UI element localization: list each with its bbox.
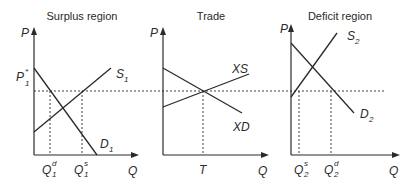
svg-text:s: s [304,159,308,168]
x-axis-label: Q [128,164,137,178]
y-axis-arrow-icon [288,24,294,32]
svg-text:2: 2 [303,170,309,179]
svg-text:Q: Q [74,163,83,177]
x-axis-label: Q [389,164,398,178]
price-label-p1-star: P * 1 [16,67,29,88]
y-axis-label: P [21,26,29,40]
excess-demand-label: XD [232,120,250,134]
svg-text:d: d [334,159,339,168]
svg-text:1: 1 [84,170,88,179]
panel-title: Surplus region [47,10,118,22]
demand-curve-d1 [34,68,97,155]
supply-label-s2: S [347,29,355,43]
demand-label-d2: D [360,107,369,121]
panel-surplus-region: Surplus region P Q P * 1 S 1 D 1 Q d 1 [16,10,139,179]
svg-text:1: 1 [52,170,56,179]
svg-text:1: 1 [124,75,128,84]
q2-demand-label: Q d 2 [324,159,339,179]
panel-title: Trade [197,10,225,22]
spatial-trade-diagram: Surplus region P Q P * 1 S 1 D 1 Q d 1 [0,0,415,182]
panel-title: Deficit region [308,10,372,22]
y-axis-arrow-icon [160,27,166,35]
excess-demand-curve [163,68,242,113]
demand-label-d1: D [100,137,109,151]
svg-text:1: 1 [109,145,113,154]
panel-deficit-region: Deficit region P Q S 2 D 2 Q s 2 Q d 2 [280,10,400,179]
svg-text:Q: Q [294,163,303,177]
x-axis-arrow-icon [131,152,139,158]
svg-text:*: * [25,67,29,76]
y-axis-label: P [280,22,288,36]
svg-text:1: 1 [25,79,29,88]
q1-supply-label: Q s 1 [74,159,88,179]
y-axis-arrow-icon [31,27,37,35]
svg-text:d: d [52,159,57,168]
svg-text:Q: Q [324,163,333,177]
svg-text:2: 2 [354,37,360,46]
svg-text:Q: Q [42,163,51,177]
excess-supply-curve [163,74,249,107]
supply-label-s1: S [116,67,124,81]
q2-supply-label: Q s 2 [294,159,309,179]
trade-quantity-label: T [199,163,208,177]
q1-demand-label: Q d 1 [42,159,57,179]
y-axis-label: P [150,26,158,40]
x-axis-arrow-icon [261,152,269,158]
svg-text:2: 2 [368,115,374,124]
panel-trade: Trade P Q XS XD T [150,10,269,178]
supply-curve-s1 [34,68,111,132]
excess-supply-label: XS [231,62,248,76]
x-axis-label: Q [258,164,267,178]
svg-text:P: P [16,70,24,84]
svg-text:s: s [84,159,88,168]
svg-text:2: 2 [333,170,339,179]
x-axis-arrow-icon [392,152,400,158]
